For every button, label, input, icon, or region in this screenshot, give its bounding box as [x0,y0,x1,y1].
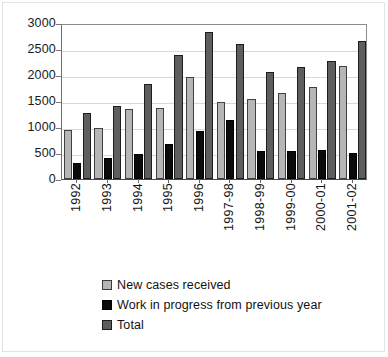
y-axis: 300025002000150010005000 [0,0,56,190]
bar-group [186,25,213,179]
bar-group [64,25,91,179]
bar [134,154,142,179]
bar-group [339,25,366,179]
bar [287,151,295,179]
bar [165,144,173,179]
bar [186,77,194,179]
chart-legend: New cases receivedWork in progress from … [102,275,342,335]
bar [358,41,366,179]
bar [83,113,91,179]
x-axis-tick-label: 1995 [161,183,175,212]
x-axis-tick-label: 1999-00 [284,183,298,231]
bar [113,106,121,179]
legend-swatch-icon [102,320,112,330]
bar [327,61,335,179]
x-axis-tick-label: 2000-01 [314,183,328,231]
legend-item: Total [102,315,342,335]
bar [196,131,204,179]
bar-group [278,25,305,179]
y-axis-tick-label: 2500 [4,43,56,55]
y-axis-tick-label: 0 [4,173,56,185]
legend-label: Total [117,318,144,332]
plot-area [61,24,367,180]
y-axis-tick-label: 1000 [4,121,56,133]
x-axis-tick-label: 1993 [100,183,114,212]
x-axis-tick-label: 1997-98 [222,183,236,231]
bar [226,120,234,179]
legend-swatch-icon [102,300,112,310]
bar [217,102,225,179]
bar [318,150,326,179]
bar-group [217,25,244,179]
plot-wrapper: 300025002000150010005000 [0,0,388,190]
x-axis-tick-label: 1998-99 [253,183,267,231]
legend-item: Work in progress from previous year [102,295,342,315]
bar [297,67,305,179]
x-axis-tick-label: 1996 [192,183,206,212]
bar [144,84,152,179]
bar [236,44,244,179]
legend-item: New cases received [102,275,342,295]
bar [73,163,81,179]
x-axis-tick-label: 1992 [69,183,83,212]
legend-swatch-icon [102,280,112,290]
bar [125,109,133,179]
bar [339,66,347,179]
bar [257,151,265,179]
bar [174,55,182,179]
bar [309,87,317,179]
bar-group [94,25,121,179]
bar [266,72,274,179]
bar-chart-figure: 300025002000150010005000 199219931994199… [0,0,388,357]
y-axis-tick-label: 3000 [4,17,56,29]
bar [247,99,255,179]
bar [205,32,213,179]
y-axis-tick-label: 2000 [4,69,56,81]
y-axis-tick-label: 500 [4,147,56,159]
bar [278,93,286,179]
legend-label: New cases received [117,278,231,292]
bar [94,128,102,179]
bar-group [156,25,183,179]
bar [64,130,72,179]
y-axis-tick-label: 1500 [4,95,56,107]
bar-group [247,25,274,179]
legend-label: Work in progress from previous year [117,298,322,312]
x-axis-tick-label: 1994 [131,183,145,212]
x-axis: 199219931994199519961997-981998-991999-0… [61,183,367,263]
bar [104,158,112,179]
bar [156,108,164,179]
x-axis-tick-label: 2001-02 [345,183,359,231]
bar-group [125,25,152,179]
bar-group [309,25,336,179]
y-axis-tick-mark [56,180,61,181]
bar [349,153,357,179]
